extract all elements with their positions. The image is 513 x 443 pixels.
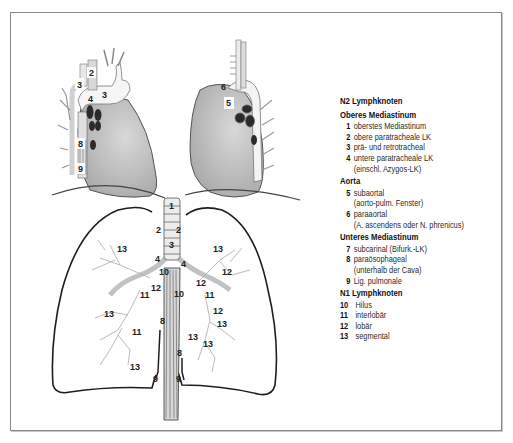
label-3-right: 3 bbox=[102, 90, 107, 100]
label-13-left-mid: 13 bbox=[104, 309, 114, 319]
label-8-upper: 8 bbox=[160, 316, 165, 326]
legend-item-note: (einschl. Azygos-LK) bbox=[340, 164, 482, 175]
legend-item: 9Lig. pulmonale bbox=[340, 276, 482, 287]
legend-section-oberes-mediastinum: Oberes Mediastinum 1oberstes Mediastinum… bbox=[340, 110, 482, 175]
section-heading: Oberes Mediastinum bbox=[340, 110, 482, 121]
label-11-left-lower: 11 bbox=[132, 327, 142, 337]
legend-item-note: (aorto-pulm. Fenster) bbox=[340, 198, 482, 209]
legend-section-n1: N1 Lymphknoten 10Hilus 11interlobär 12lo… bbox=[340, 288, 482, 342]
label-3: 3 bbox=[169, 240, 174, 250]
section-heading: N1 Lymphknoten bbox=[340, 288, 482, 299]
label-10-left: 10 bbox=[159, 267, 169, 277]
legend-item: 10Hilus bbox=[340, 300, 482, 311]
legend-section-aorta: Aorta 5subaortal (aorto-pulm. Fenster) 6… bbox=[340, 176, 482, 230]
lungs: 1 2 2 3 4 4 10 10 13 12 11 13 11 13 13 1… bbox=[52, 198, 276, 420]
label-2: 2 bbox=[89, 68, 94, 78]
legend-title: N2 Lymphknoten bbox=[340, 96, 482, 107]
label-1: 1 bbox=[169, 201, 174, 211]
label-12-right-b: 12 bbox=[196, 278, 206, 288]
label-9-right: 9 bbox=[176, 374, 181, 384]
label-9: 9 bbox=[78, 164, 83, 174]
label-4-left: 4 bbox=[155, 254, 160, 264]
legend: N2 Lymphknoten Oberes Mediastinum 1obers… bbox=[340, 96, 482, 344]
legend-item: 3prä- und retrotracheal bbox=[340, 142, 482, 153]
label-4-right: 4 bbox=[181, 259, 186, 269]
label-11-right: 11 bbox=[205, 290, 215, 300]
legend-item: 6paraaortal bbox=[340, 209, 482, 220]
legend-item: 1oberstes Mediastinum bbox=[340, 121, 482, 132]
legend-item: 7subcarinal (Bifurk.-LK) bbox=[340, 244, 482, 255]
label-13-left-lower: 13 bbox=[130, 362, 140, 372]
label-6: 6 bbox=[221, 82, 226, 92]
left-mediastinum-view: 6 5 bbox=[185, 40, 300, 200]
legend-item-note: (unterhalb der Cava) bbox=[340, 265, 482, 276]
label-4: 4 bbox=[88, 94, 93, 104]
section-heading: Aorta bbox=[340, 176, 482, 187]
legend-item: 2obere paratracheale LK bbox=[340, 132, 482, 143]
legend-item: 4untere paratracheale LK bbox=[340, 153, 482, 164]
section-heading: Unteres Mediastinum bbox=[340, 232, 482, 243]
label-9-left: 9 bbox=[153, 374, 158, 384]
label-5: 5 bbox=[226, 98, 231, 108]
label-10-right: 10 bbox=[174, 289, 184, 299]
legend-item: 12lobär bbox=[340, 321, 482, 332]
label-13-right-b: 13 bbox=[188, 332, 198, 342]
label-8: 8 bbox=[78, 139, 83, 149]
label-13-right-upper: 13 bbox=[213, 244, 223, 254]
label-12-left: 12 bbox=[151, 283, 161, 293]
label-12-right-c: 12 bbox=[213, 306, 223, 316]
label-2-left: 2 bbox=[156, 225, 161, 235]
label-2-right: 2 bbox=[176, 225, 181, 235]
label-12-right-a: 12 bbox=[222, 267, 232, 277]
label-11-left-upper: 11 bbox=[140, 290, 150, 300]
legend-section-unteres-mediastinum: Unteres Mediastinum 7subcarinal (Bifurk.… bbox=[340, 232, 482, 286]
label-13-left-upper: 13 bbox=[117, 244, 127, 254]
legend-item-note: (A. ascendens oder N. phrenicus) bbox=[340, 220, 482, 231]
label-13-right-c: 13 bbox=[203, 339, 213, 349]
label-8-lower: 8 bbox=[177, 348, 182, 358]
legend-item: 8paraösophageal bbox=[340, 254, 482, 265]
label-3-left: 3 bbox=[77, 80, 82, 90]
legend-item: 5subaortal bbox=[340, 188, 482, 199]
right-mediastinum-view: 2 3 3 4 8 9 bbox=[52, 48, 165, 198]
label-13-right-a: 13 bbox=[217, 319, 227, 329]
legend-item: 13segmental bbox=[340, 331, 482, 342]
legend-item: 11interlobär bbox=[340, 310, 482, 321]
